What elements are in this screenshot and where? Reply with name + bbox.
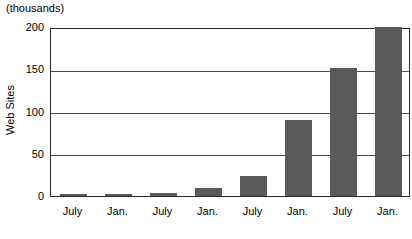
y-axis-tick-label: 150	[8, 64, 44, 75]
x-axis-tick-label: Jan.	[95, 205, 141, 217]
x-axis-tick-label: July	[50, 205, 96, 217]
y-axis-tick-label: 100	[8, 107, 44, 118]
bar	[105, 194, 132, 196]
bar	[195, 188, 222, 196]
x-axis-tick-label: July	[230, 205, 276, 217]
x-axis-tick-label: July	[140, 205, 186, 217]
y-axis-tick-label: 50	[8, 149, 44, 160]
x-axis-tick-label: Jan.	[365, 205, 411, 217]
bar-chart: (thousands) Web Sites 050100150200 JulyJ…	[0, 0, 412, 239]
plot-area	[50, 28, 410, 197]
units-caption: (thousands)	[6, 2, 64, 15]
x-axis-tick-label: July	[320, 205, 366, 217]
bar	[240, 176, 267, 196]
bar	[150, 193, 177, 196]
y-axis-tick-label: 200	[8, 22, 44, 33]
bar	[285, 120, 312, 196]
x-axis-tick-label: Jan.	[185, 205, 231, 217]
y-axis-tick-label: 0	[8, 191, 44, 202]
x-axis-tick-label: Jan.	[275, 205, 321, 217]
bar	[60, 194, 87, 196]
bar	[375, 27, 402, 196]
bar	[330, 68, 357, 196]
